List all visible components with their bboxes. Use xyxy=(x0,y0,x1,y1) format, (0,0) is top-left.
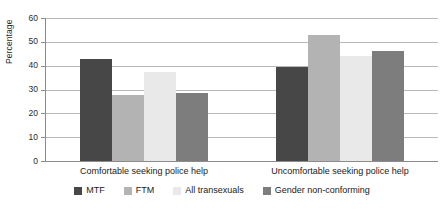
y-tick-label-30: 30 xyxy=(0,85,38,94)
gridline-0 xyxy=(46,161,438,162)
legend-swatch-icon xyxy=(173,187,181,195)
x-axis-category-label: Uncomfortable seeking police help xyxy=(230,166,444,176)
legend-label: Gender non-conforming xyxy=(275,186,370,195)
bar xyxy=(340,56,372,161)
bar xyxy=(372,51,404,161)
bar xyxy=(308,35,340,161)
y-tick-label-0: 0 xyxy=(0,157,38,166)
legend-label: All transexuals xyxy=(185,186,244,195)
bar xyxy=(176,93,208,161)
legend-item: FTM xyxy=(124,186,155,195)
legend-swatch-icon xyxy=(124,187,132,195)
bar xyxy=(80,59,112,161)
bar-chart: Percentage 0102030405060 Comfortable see… xyxy=(0,0,444,211)
gridline-60 xyxy=(46,18,438,19)
bar xyxy=(276,67,308,161)
legend-label: FTM xyxy=(136,186,155,195)
bar xyxy=(112,95,144,161)
legend-item: All transexuals xyxy=(173,186,244,195)
gridline-50 xyxy=(46,42,438,43)
legend-swatch-icon xyxy=(74,187,82,195)
x-axis-category-label: Comfortable seeking police help xyxy=(34,166,254,176)
chart-legend: MTFFTMAll transexualsGender non-conformi… xyxy=(0,186,444,195)
y-tick-label-40: 40 xyxy=(0,61,38,70)
legend-item: Gender non-conforming xyxy=(263,186,370,195)
legend-swatch-icon xyxy=(263,187,271,195)
plot-area xyxy=(46,18,438,161)
y-tick-label-60: 60 xyxy=(0,14,38,23)
legend-label: MTF xyxy=(86,186,105,195)
y-tick-label-10: 10 xyxy=(0,133,38,142)
bar xyxy=(144,72,176,161)
y-tick-label-20: 20 xyxy=(0,109,38,118)
legend-item: MTF xyxy=(74,186,105,195)
y-tick-label-50: 50 xyxy=(0,37,38,46)
